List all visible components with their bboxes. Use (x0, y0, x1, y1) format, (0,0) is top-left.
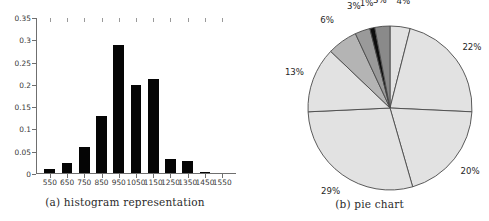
y-axis-tick (32, 152, 36, 153)
histogram-bar (44, 169, 55, 173)
x-axis-tick-top (153, 18, 154, 22)
pie-slice-label: 13% (285, 67, 304, 77)
y-axis-tick (32, 107, 36, 108)
pie-slice-label: 6% (320, 15, 334, 25)
x-axis-tick-top (170, 18, 171, 22)
x-axis-tick-top (50, 18, 51, 22)
histogram-bar (182, 161, 193, 173)
y-axis-tick (32, 174, 36, 175)
x-axis-tick-label: 1150 (144, 178, 163, 187)
histogram-bar (200, 172, 211, 173)
y-axis-tick-label: 0.35 (15, 14, 31, 23)
histogram-bar (96, 116, 107, 173)
x-axis-tick-label: 750 (77, 178, 91, 187)
y-axis-tick-label: 0.05 (15, 147, 31, 156)
x-axis-tick-top (136, 18, 137, 22)
x-axis-tick-top (84, 18, 85, 22)
x-axis-tick-top (102, 18, 103, 22)
y-axis-tick (32, 18, 36, 19)
x-axis-tick-label: 1050 (127, 178, 146, 187)
pie-slice-label: 20% (460, 166, 479, 176)
histogram-bar (131, 85, 142, 173)
x-axis-tick-top (188, 18, 189, 22)
subfigure-a-caption: (a) histogram representation (0, 196, 250, 208)
y-axis-line (36, 18, 37, 174)
y-axis-tick (32, 40, 36, 41)
pie-slice-label: 3% (347, 1, 361, 11)
histogram-plot-area: 00.050.10.150.20.250.30.3555065075085095… (36, 18, 236, 174)
x-axis-tick-top (222, 18, 223, 22)
histogram-bar (165, 159, 176, 173)
y-axis-tick-label: 0.25 (15, 58, 31, 67)
pie-chart-area: 4%22%20%29%13%6%3%1%3% (250, 0, 489, 200)
histogram-bar (113, 45, 124, 173)
figure-row: 00.050.10.150.20.250.30.3555065075085095… (0, 0, 489, 221)
x-axis-tick-top (205, 18, 206, 22)
pie-slice-label: 1% (360, 0, 374, 8)
x-axis-tick-label: 1450 (196, 178, 215, 187)
x-axis-tick-label: 1350 (178, 178, 197, 187)
y-axis-tick (32, 85, 36, 86)
y-axis-tick-label: 0.2 (19, 80, 31, 89)
x-axis-tick-label: 850 (94, 178, 108, 187)
subfigure-b-caption: (b) pie chart (250, 198, 489, 210)
x-axis-tick-label: 550 (43, 178, 57, 187)
pie-subfigure: 4%22%20%29%13%6%3%1%3% (b) pie chart (250, 0, 489, 221)
pie-slice-label: 22% (462, 42, 481, 52)
histogram-subfigure: 00.050.10.150.20.250.30.3555065075085095… (0, 0, 250, 221)
y-axis-tick-label: 0.1 (19, 125, 31, 134)
pie-slice-label: 29% (321, 186, 340, 196)
x-axis-tick-label: 1250 (161, 178, 180, 187)
y-axis-tick-label: 0.15 (15, 103, 31, 112)
histogram-bar (62, 163, 73, 173)
pie-chart-svg (250, 0, 489, 200)
y-axis-tick (32, 63, 36, 64)
x-axis-tick-label: 650 (60, 178, 74, 187)
x-axis-tick-top (119, 18, 120, 22)
y-axis-tick-label: 0.3 (19, 36, 31, 45)
y-axis-tick (32, 129, 36, 130)
pie-slice-label: 4% (397, 0, 411, 6)
x-axis-tick-top (67, 18, 68, 22)
histogram-bar (79, 147, 90, 173)
histogram-bar (148, 79, 159, 173)
x-axis-tick-label: 950 (112, 178, 126, 187)
y-axis-tick-label: 0 (26, 170, 31, 179)
pie-slice-label: 3% (373, 0, 387, 5)
x-axis-tick-label: 1550 (213, 178, 232, 187)
